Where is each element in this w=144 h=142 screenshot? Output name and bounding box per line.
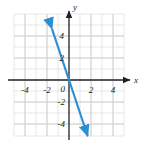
y-tick-label-minus4: -4 [58,119,66,129]
x-tick-label-minus4: -4 [21,85,29,95]
x-tick-label-4: 4 [111,85,116,95]
x-tick-label-2: 2 [89,85,94,95]
graph-canvas: -4 -2 2 4 4 2 -2 -4 0 x y [0,0,144,142]
coordinate-plane-figure: -4 -2 2 4 4 2 -2 -4 0 x y [0,0,144,142]
y-tick-label-4: 4 [60,31,65,41]
origin-label: 0 [61,84,66,94]
y-tick-label-2: 2 [60,53,65,63]
x-tick-label-minus2: -2 [43,85,51,95]
y-axis-label: y [72,2,77,12]
x-axis-label: x [133,75,138,85]
y-tick-label-minus2: -2 [58,97,66,107]
